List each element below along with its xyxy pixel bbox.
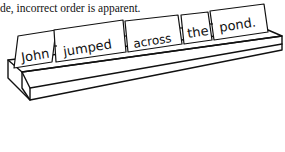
word-card-john: John [14, 30, 56, 68]
sentence-strip-illustration: John jumped across the pond. [0, 0, 285, 152]
word-card-across: across [125, 15, 182, 52]
word-card-jumped: jumped [54, 20, 126, 62]
word-card-pond: pond. [210, 4, 268, 40]
word-card-the: the [181, 12, 212, 44]
